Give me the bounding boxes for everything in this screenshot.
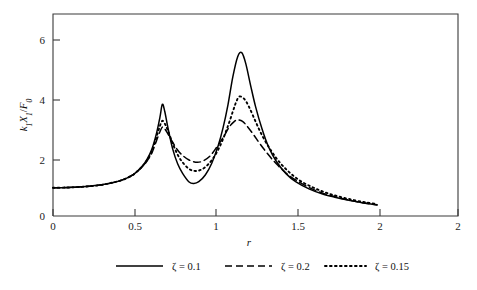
x-axis-tick-labels: 0 0.5 1 1.5 2 2 <box>50 220 461 232</box>
chart-canvas: 6 4 2 0 0 0.5 1 1.5 2 2 r k1X1/ <box>0 0 477 290</box>
x-tick-label-1: 1 <box>213 220 219 232</box>
x-tick-label-0p5: 0.5 <box>128 220 142 232</box>
y-axis-tick-labels: 6 4 2 0 <box>40 34 46 222</box>
legend-label-2: ζ = 0.15 <box>375 261 409 273</box>
legend: ζ = 0.1 ζ = 0.2 ζ = 0.15 <box>116 261 409 273</box>
legend-label-0: ζ = 0.1 <box>172 261 201 273</box>
curve-zeta-0.1 <box>53 52 377 205</box>
y-tick-label-6: 6 <box>40 34 46 46</box>
x-axis-title: r <box>247 236 252 248</box>
y-axis-ticks <box>53 40 60 160</box>
y-axis-title: k1X1/F0 <box>17 98 34 131</box>
x-tick-label-2: 2 <box>377 220 383 232</box>
x-tick-label-1p5: 1.5 <box>291 220 305 232</box>
y-tick-label-0: 0 <box>40 210 46 222</box>
x-tick-label-end: 2 <box>455 220 461 232</box>
data-curves <box>53 52 377 205</box>
x-tick-label-0: 0 <box>50 220 56 232</box>
figure-container: 6 4 2 0 0 0.5 1 1.5 2 2 r k1X1/ <box>0 0 477 290</box>
y-tick-label-4: 4 <box>40 94 46 106</box>
curve-zeta-0.2 <box>53 120 377 205</box>
svg-text:k1X1/F0: k1X1/F0 <box>17 98 34 131</box>
y-tick-label-2: 2 <box>40 154 46 166</box>
x-axis-ticks <box>53 209 458 216</box>
axes-frame <box>53 14 458 216</box>
y-axis-title-F-sub: 0 <box>25 98 34 102</box>
legend-label-1: ζ = 0.2 <box>281 261 310 273</box>
